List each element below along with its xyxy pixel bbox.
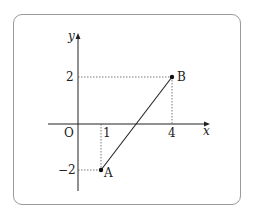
point-a-label: A bbox=[103, 166, 113, 180]
y-axis-label: y bbox=[67, 29, 75, 43]
x-axis-label: x bbox=[203, 124, 210, 138]
origin-label: O bbox=[64, 126, 74, 140]
y-axis-arrow-icon bbox=[76, 33, 81, 39]
x-tick-1-label: 1 bbox=[103, 126, 111, 140]
point-b-label: B bbox=[177, 70, 186, 84]
y-tick-2-label: 2 bbox=[66, 70, 74, 84]
point-a bbox=[99, 168, 103, 172]
point-b bbox=[170, 75, 174, 79]
y-tick-neg2-label: −2 bbox=[58, 163, 76, 177]
coordinate-plane: y x O 1 4 2 −2 A B bbox=[0, 0, 254, 220]
x-tick-4-label: 4 bbox=[168, 126, 176, 140]
